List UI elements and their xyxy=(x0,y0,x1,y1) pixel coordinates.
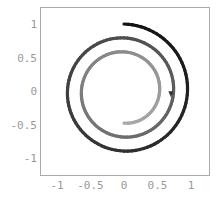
x-tick-label: 1 xyxy=(188,179,195,192)
spiral-line xyxy=(67,24,187,151)
spiral-chart: -1-0.500.51 10.50-0.5-1 xyxy=(0,0,222,200)
y-tick-label: -1 xyxy=(24,152,37,165)
y-tick-label: 1 xyxy=(30,18,37,31)
y-tick-label: 0 xyxy=(30,85,37,98)
x-tick-label: 0.5 xyxy=(148,179,168,192)
x-tick-label: 0 xyxy=(121,179,128,192)
y-tick-label: -0.5 xyxy=(11,119,38,132)
x-tick-label: -1 xyxy=(50,179,63,192)
x-tick-label: -0.5 xyxy=(77,179,104,192)
x-axis-ticks: -1-0.500.51 xyxy=(50,179,194,192)
y-axis-ticks: 10.50-0.5-1 xyxy=(11,18,38,165)
y-tick-label: 0.5 xyxy=(17,52,37,65)
